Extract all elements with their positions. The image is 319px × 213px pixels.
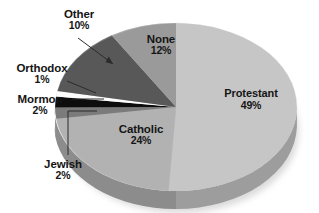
slice-label-none: None 12% xyxy=(135,33,187,57)
slice-label-catholic: Catholic 24% xyxy=(110,123,172,147)
slice-label-orthodox: Orthodox 1% xyxy=(6,62,78,86)
slice-label-none-value: 12% xyxy=(135,45,187,56)
slice-label-protestant: Protestant 49% xyxy=(214,88,288,111)
slice-label-jewish: Jewish 2% xyxy=(34,158,92,182)
slice-label-jewish-value: 2% xyxy=(34,170,92,181)
pie-chart: Other 10% Orthodox 1% Mormon 2% Jewish 2… xyxy=(0,0,319,213)
slice-label-protestant-value: 49% xyxy=(214,100,288,111)
slice-label-catholic-value: 24% xyxy=(110,135,172,146)
slice-label-mormon: Mormon 2% xyxy=(6,93,74,117)
slice-label-other: Other 10% xyxy=(48,8,110,32)
slice-label-other-value: 10% xyxy=(48,20,110,31)
slice-label-mormon-value: 2% xyxy=(6,105,74,116)
slice-label-orthodox-value: 1% xyxy=(6,74,78,85)
